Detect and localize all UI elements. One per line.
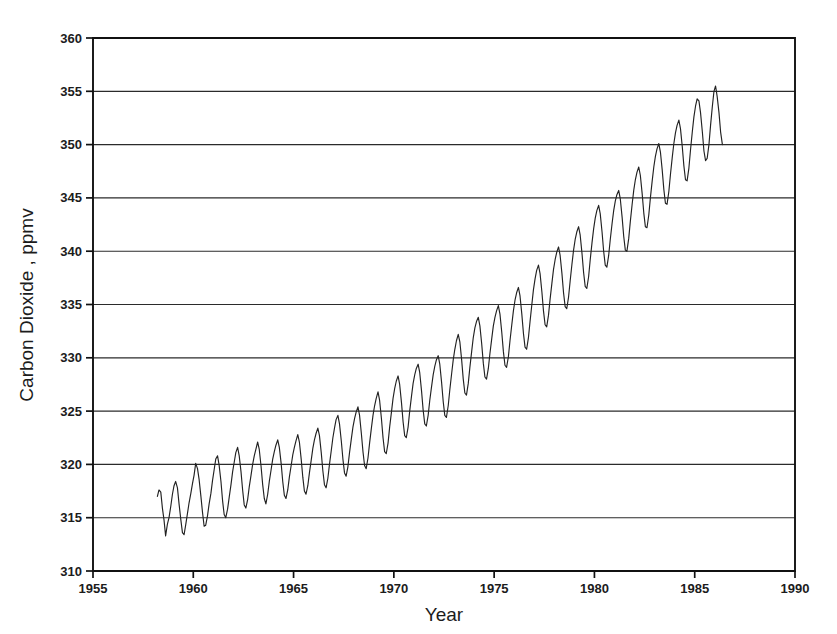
x-axis-title: Year	[425, 604, 464, 625]
y-tick-label-345: 345	[60, 190, 82, 205]
x-tick-label-1965: 1965	[279, 581, 308, 596]
y-tick-label-330: 330	[60, 350, 82, 365]
y-tick-label-325: 325	[60, 404, 82, 419]
x-tick-label-1960: 1960	[179, 581, 208, 596]
x-tick-label-1970: 1970	[379, 581, 408, 596]
y-tick-label-320: 320	[60, 457, 82, 472]
y-tick-label-360: 360	[60, 31, 82, 46]
x-tick-label-1990: 1990	[781, 581, 810, 596]
co2-chart-figure: 310315320325330335340345350355360 195519…	[0, 0, 837, 634]
y-tick-label-310: 310	[60, 564, 82, 579]
co2-data-line	[157, 86, 722, 536]
x-axis-ticks	[93, 571, 795, 578]
y-tick-label-340: 340	[60, 244, 82, 259]
x-axis-tick-labels: 19551960196519701975198019851990	[79, 581, 810, 596]
y-tick-label-350: 350	[60, 137, 82, 152]
x-tick-label-1980: 1980	[580, 581, 609, 596]
y-axis-title: Carbon Dioxide , ppmv	[16, 208, 37, 402]
y-tick-label-315: 315	[60, 510, 82, 525]
y-tick-label-355: 355	[60, 84, 82, 99]
x-tick-label-1975: 1975	[480, 581, 509, 596]
y-axis-ticks	[86, 38, 93, 571]
chart-canvas: 310315320325330335340345350355360 195519…	[0, 0, 837, 634]
y-axis-tick-labels: 310315320325330335340345350355360	[60, 31, 82, 579]
x-tick-label-1955: 1955	[79, 581, 108, 596]
y-tick-label-335: 335	[60, 297, 82, 312]
x-tick-label-1985: 1985	[680, 581, 709, 596]
